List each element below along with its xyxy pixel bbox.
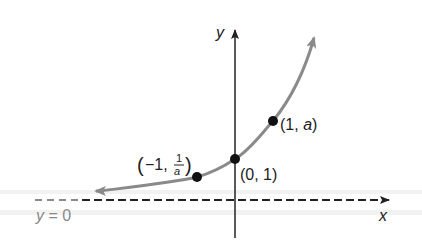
background-band [0, 190, 422, 194]
y-axis-label: y [215, 24, 225, 41]
point-1-label-var: a [303, 116, 312, 133]
asymptote-label-rest: = 0 [44, 207, 71, 224]
point-0 [230, 154, 240, 164]
point-neg1-frac-den: a [174, 165, 180, 177]
point-neg1-frac-num: 1 [176, 152, 182, 164]
exponential-curve [100, 38, 314, 191]
point-neg1-paren-open: ( [137, 154, 144, 176]
point-neg1-paren-close: ) [185, 154, 192, 176]
point-1-label: (1, a) [280, 116, 317, 133]
point-neg1 [192, 172, 202, 182]
point-0-label: (0, 1) [240, 166, 277, 183]
graph-svg: y x y = 0 (0, 1) (1, a) ( −1, 1 a ) [0, 0, 422, 251]
point-1 [268, 116, 278, 126]
point-1-label-close: ) [312, 116, 317, 133]
exponential-graph: y x y = 0 (0, 1) (1, a) ( −1, 1 a ) [0, 0, 422, 251]
point-1-label-open: (1, [280, 116, 303, 133]
asymptote-label: y = 0 [35, 207, 71, 224]
point-neg1-label-open: −1, [145, 156, 168, 173]
x-axis-label: x [378, 207, 388, 224]
